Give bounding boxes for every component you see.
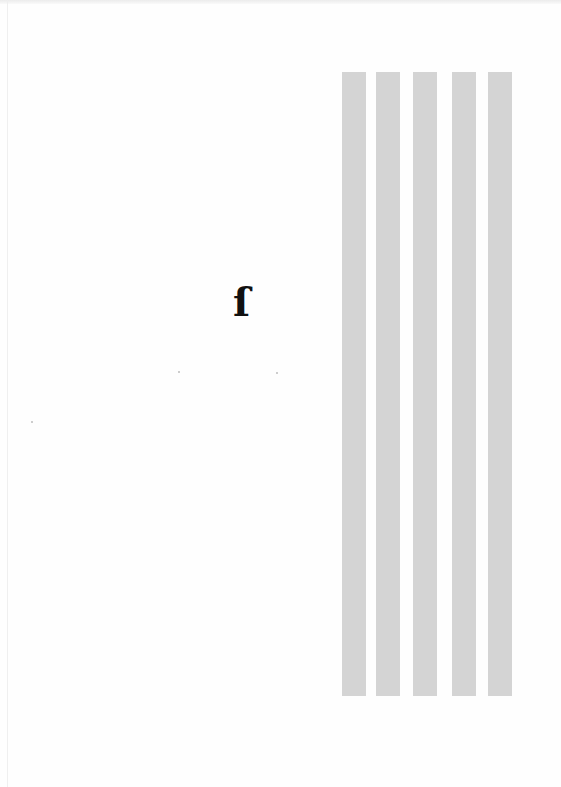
left-margin-line [7, 0, 8, 787]
grey-stripe-1 [342, 72, 366, 696]
grey-stripe-2 [376, 72, 400, 696]
scanned-page: ſ [0, 0, 561, 787]
ornate-glyph: ſ [233, 282, 250, 322]
speck-mark [178, 371, 180, 373]
grey-stripe-5 [488, 72, 512, 696]
grey-stripe-4 [452, 72, 476, 696]
speck-mark [276, 372, 278, 374]
grey-stripe-3 [413, 72, 437, 696]
speck-mark [31, 421, 33, 423]
top-scan-bleed [0, 0, 561, 4]
